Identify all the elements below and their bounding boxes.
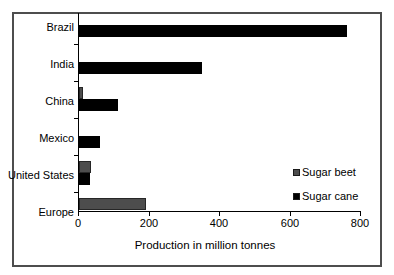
legend-label-sugar-cane: Sugar cane (302, 190, 358, 202)
chart-screenshot: { "chart_data": { "type": "bar", "orient… (0, 0, 394, 275)
legend-item-sugar-beet: Sugar beet (293, 166, 358, 178)
legend: Sugar beetSugar cane (293, 166, 358, 202)
chart-border-frame (12, 12, 382, 267)
x-axis-title: Production in million tonnes (63, 238, 347, 252)
legend-swatch-sugar-cane (293, 193, 300, 200)
legend-label-sugar-beet: Sugar beet (302, 166, 356, 178)
legend-item-sugar-cane: Sugar cane (293, 190, 358, 202)
legend-swatch-sugar-beet (293, 169, 300, 176)
